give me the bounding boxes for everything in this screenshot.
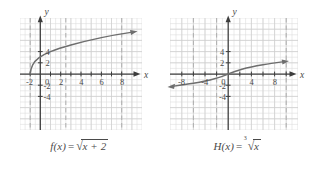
x-axis-label-right: x — [299, 70, 305, 80]
equals-sign-left: = — [66, 140, 76, 152]
radicand-left: x + 2 — [81, 139, 107, 152]
equals-sign-right: = — [234, 140, 244, 152]
x-tick-label-left-4: 6 — [100, 77, 104, 87]
function-name-left: f(x) — [50, 140, 66, 152]
y-tick-label-left-3: -4 — [43, 92, 51, 102]
x-tick-label-right-4: 8 — [273, 77, 277, 87]
x-tick-label-right-0: -8 — [178, 77, 185, 87]
x-tick-label-right-3: 4 — [249, 77, 254, 87]
axes-right — [170, 20, 291, 130]
graph-svg-left: x y -2 0 2 4 6 8 4 2 -2 -4 — [0, 0, 158, 138]
curve-arrowhead-right-left-end — [168, 84, 176, 89]
x-tick-label-left-0: -2 — [26, 77, 33, 87]
graph-svg-right: x y -8 -4 0 4 8 4 2 -2 -4 — [158, 0, 316, 138]
y-tick-label-right-2: -2 — [219, 81, 226, 91]
graph-panel-left: x y -2 0 2 4 6 8 4 2 -2 -4 — [0, 0, 158, 173]
axes-left — [20, 20, 135, 130]
curve-arrowhead-right-right-end — [282, 59, 289, 64]
radical-left: √x + 2 — [76, 139, 108, 152]
y-tick-label-left-1: 2 — [45, 58, 49, 68]
radical-right: 3√x — [244, 139, 260, 152]
y-tick-label-right-1: 2 — [220, 58, 224, 68]
figure-container: x y -2 0 2 4 6 8 4 2 -2 -4 — [0, 0, 316, 173]
y-tick-label-right-3: -4 — [219, 92, 227, 102]
y-tick-label-left-2: -2 — [43, 81, 50, 91]
x-tick-label-right-1: -4 — [201, 77, 209, 87]
caption-left: f(x)=√x + 2 — [0, 139, 158, 152]
radical-sign-icon-right: √ — [248, 139, 255, 152]
plot-area-left: x y -2 0 2 4 6 8 4 2 -2 -4 — [0, 0, 158, 138]
y-axis-arrowhead-left — [38, 16, 43, 23]
function-name-right: H(x) — [213, 140, 234, 152]
plot-area-right: x y -8 -4 0 4 8 4 2 -2 -4 — [158, 0, 316, 138]
y-axis-arrowhead-right — [226, 16, 231, 23]
x-tick-label-left-3: 4 — [79, 77, 84, 87]
radical-sign-icon-left: √ — [76, 139, 83, 152]
y-axis-label-left: y — [43, 7, 49, 17]
curve-arrowhead-left — [130, 30, 138, 35]
x-tick-label-left-2: 2 — [59, 77, 63, 87]
caption-right: H(x)=3√x — [158, 139, 316, 152]
x-axis-arrowhead-right — [290, 71, 297, 76]
graph-panel-right: x y -8 -4 0 4 8 4 2 -2 -4 — [158, 0, 316, 173]
x-tick-label-left-5: 8 — [120, 77, 124, 87]
x-axis-label-left: x — [143, 70, 149, 80]
y-axis-label-right: y — [231, 7, 237, 17]
radical-index-right: 3 — [244, 135, 247, 141]
